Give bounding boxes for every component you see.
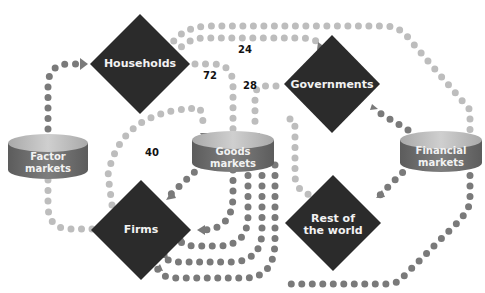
goods-markets-line2: markets <box>210 158 256 170</box>
flow-financial-to-rest-of-world <box>380 165 410 195</box>
goods-markets-line1: Goods <box>210 146 256 158</box>
value-72: 72 <box>203 70 217 81</box>
flow-financial-to-governments <box>378 112 408 130</box>
governments-label: Governments <box>290 79 373 91</box>
value-28: 28 <box>243 80 257 91</box>
rest-of-world-line2: the world <box>303 225 362 237</box>
value-24: 24 <box>238 44 252 55</box>
flow-goods-to-firms-1 <box>170 165 202 195</box>
flow-governments-to-goods <box>255 86 276 130</box>
flow-misc-to-goods <box>290 119 310 195</box>
factor-markets-line2: markets <box>25 163 71 175</box>
value-40: 40 <box>145 147 159 158</box>
flow-goods-to-firms-3 <box>180 165 248 246</box>
goods-markets-label: Goods markets <box>210 146 256 170</box>
firms-label: Firms <box>124 224 159 236</box>
flow-goods-to-firms-2 <box>205 170 233 230</box>
rest-of-world-label: Rest of the world <box>303 213 362 237</box>
factor-markets-line1: Factor <box>25 151 71 163</box>
financial-markets-line1: Financial <box>416 145 467 157</box>
factor-markets-label: Factor markets <box>25 151 71 175</box>
circular-flow-diagram: Households Governments Firms Rest of the… <box>0 0 485 293</box>
financial-markets-line2: markets <box>416 157 467 169</box>
financial-markets-label: Financial markets <box>416 145 467 169</box>
households-label: Households <box>104 58 176 70</box>
flow-firms-to-factor <box>48 180 92 229</box>
